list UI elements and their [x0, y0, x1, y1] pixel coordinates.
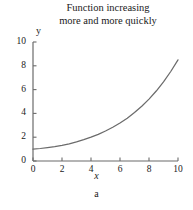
y-tick-label: 8 [8, 60, 26, 70]
data-series-line [33, 60, 178, 149]
figure: Function increasingmore and more quickly… [0, 0, 193, 210]
figure-caption: a [0, 188, 193, 199]
y-axis-label: y [36, 25, 41, 36]
x-axis-label: x [0, 170, 193, 181]
y-tick-label: 4 [8, 107, 26, 117]
y-tick-label: 6 [8, 84, 26, 94]
y-tick-label: 10 [8, 36, 26, 46]
y-tick-label: 2 [8, 131, 26, 141]
